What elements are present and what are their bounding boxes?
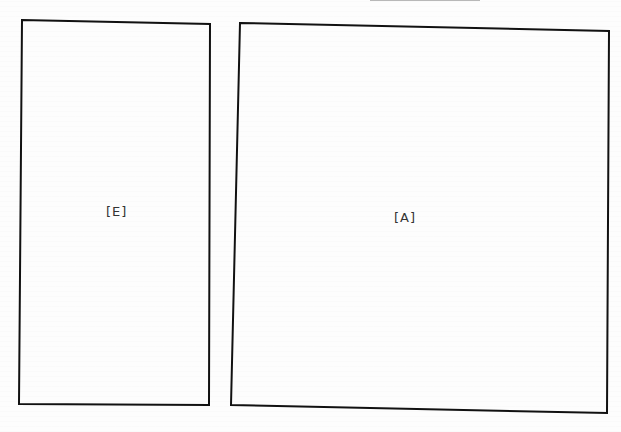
box-e-label: [E]: [106, 204, 127, 219]
diagram-frame: [0, 0, 621, 432]
box-a-label: [A]: [394, 210, 416, 225]
box-a: [231, 23, 609, 413]
